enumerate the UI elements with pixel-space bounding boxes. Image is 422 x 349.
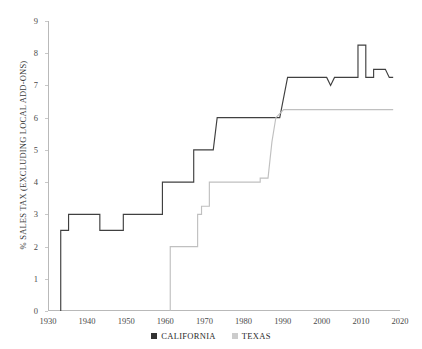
legend-item-california[interactable]: CALIFORNIA <box>151 331 215 341</box>
chart-legend: CALIFORNIATEXAS <box>0 331 422 341</box>
plot-svg <box>49 21 401 311</box>
x-tick-label: 2020 <box>380 316 420 326</box>
x-tick-label: 1990 <box>263 316 303 326</box>
y-tick-label: 9 <box>8 16 38 26</box>
legend-item-texas[interactable]: TEXAS <box>232 331 271 341</box>
y-tick-label: 2 <box>8 242 38 252</box>
sales-tax-line-chart: % SALES TAX (EXCLUDING LOCAL ADD-ONS) 01… <box>0 0 422 349</box>
y-tick-label: 6 <box>8 113 38 123</box>
y-tick-label: 4 <box>8 177 38 187</box>
y-tick-label: 0 <box>8 306 38 316</box>
y-tick-label: 5 <box>8 145 38 155</box>
y-axis-ticks: 0123456789 <box>0 0 44 349</box>
series-line-texas <box>170 110 393 311</box>
series-line-california <box>61 45 393 311</box>
x-tick-label: 2000 <box>302 316 342 326</box>
x-tick-label: 1950 <box>106 316 146 326</box>
plot-area <box>48 21 400 311</box>
x-tick-label: 2010 <box>341 316 381 326</box>
x-tick-label: 1930 <box>28 316 68 326</box>
x-tick-label: 1970 <box>184 316 224 326</box>
y-tick-label: 7 <box>8 80 38 90</box>
x-tick-label: 1960 <box>145 316 185 326</box>
legend-swatch-icon <box>151 333 157 339</box>
x-tick-label: 1940 <box>67 316 107 326</box>
x-tick-label: 1980 <box>224 316 264 326</box>
y-tick-mark <box>45 311 48 312</box>
legend-label: CALIFORNIA <box>161 331 215 341</box>
y-tick-label: 3 <box>8 209 38 219</box>
y-tick-label: 1 <box>8 274 38 284</box>
legend-swatch-icon <box>232 333 238 339</box>
legend-label: TEXAS <box>242 331 271 341</box>
y-tick-label: 8 <box>8 48 38 58</box>
